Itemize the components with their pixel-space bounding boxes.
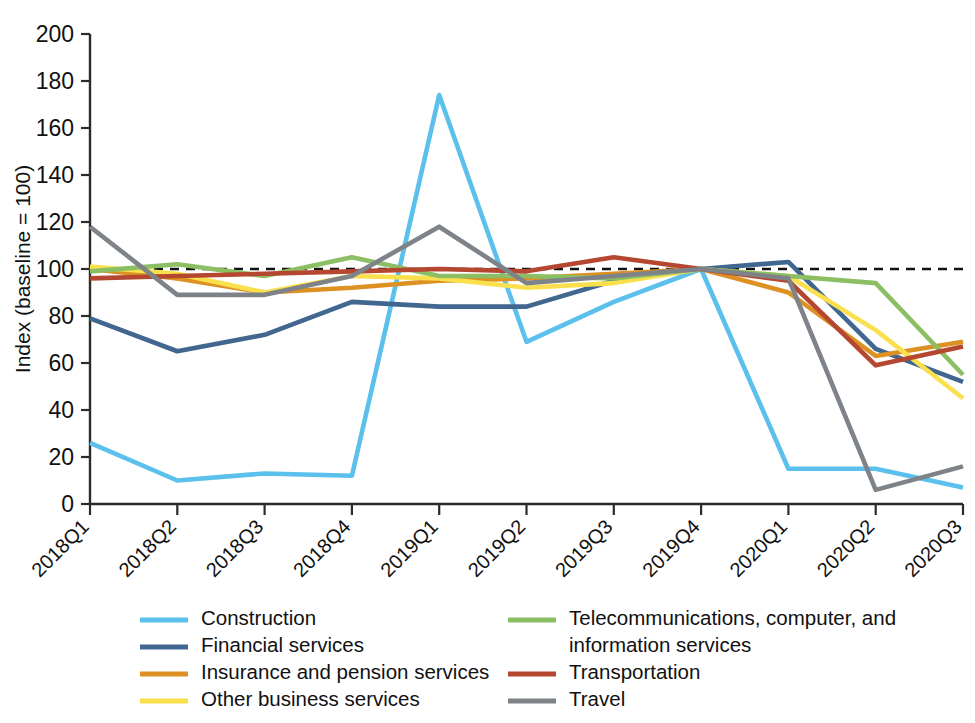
- y-axis-title: Index (baseline = 100): [11, 165, 34, 373]
- x-tick-label: 2020Q3: [900, 515, 966, 581]
- y-tick-label: 40: [48, 397, 74, 423]
- chart-canvas: 020406080100120140160180200Index (baseli…: [0, 0, 975, 723]
- y-tick-label: 120: [36, 209, 74, 235]
- y-tick-label: 80: [48, 303, 74, 329]
- x-tick-label: 2018Q3: [202, 515, 268, 581]
- x-tick-label: 2020Q2: [813, 515, 879, 581]
- legend-label-right-row-0: Telecommunications, computer, and: [569, 606, 896, 629]
- legend-label-right-row-1: information services: [569, 633, 751, 656]
- legend-label-financial-services: Financial services: [201, 633, 364, 656]
- x-tick-label: 2018Q2: [114, 515, 180, 581]
- series-line-travel: [90, 227, 963, 490]
- series-line-construction: [90, 95, 963, 487]
- x-tick-label: 2019Q1: [376, 515, 442, 581]
- y-tick-label: 20: [48, 444, 74, 470]
- legend-label-other-business-services: Other business services: [201, 687, 420, 710]
- line-chart: 020406080100120140160180200Index (baseli…: [0, 0, 975, 723]
- x-tick-label: 2019Q3: [551, 515, 617, 581]
- x-tick-label: 2019Q4: [638, 515, 704, 581]
- x-tick-label: 2018Q1: [27, 515, 93, 581]
- x-tick-label: 2018Q4: [289, 515, 355, 581]
- legend-label-construction: Construction: [201, 606, 316, 629]
- series-line-transportation: [90, 257, 963, 365]
- y-tick-label: 100: [36, 256, 74, 282]
- y-tick-label: 0: [61, 491, 74, 517]
- legend-label-insurance-and-pension-services: Insurance and pension services: [201, 660, 489, 683]
- x-tick-label: 2019Q2: [463, 515, 529, 581]
- legend-label-right-row-2: Transportation: [569, 660, 700, 683]
- y-tick-label: 160: [36, 115, 74, 141]
- legend-label-right-row-3: Travel: [569, 687, 625, 710]
- y-tick-label: 200: [36, 21, 74, 47]
- y-tick-label: 60: [48, 350, 74, 376]
- y-tick-label: 140: [36, 162, 74, 188]
- x-tick-label: 2020Q1: [725, 515, 791, 581]
- y-tick-label: 180: [36, 68, 74, 94]
